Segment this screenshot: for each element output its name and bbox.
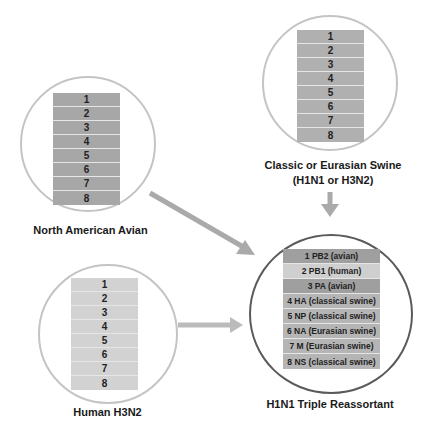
segment-3: 3: [297, 58, 364, 72]
h1n1-triple-reassortant-label: H1N1 Triple Reassortant: [255, 398, 405, 410]
segment-8: 8: [297, 128, 364, 142]
segment-pb1-human: 2 PB1 (human): [283, 264, 380, 279]
segment-3: 3: [71, 306, 138, 320]
segment-2: 2: [297, 44, 364, 58]
segment-8: 8: [53, 191, 120, 205]
arrow-human-to-result: [178, 317, 243, 333]
segment-1: 1: [297, 30, 364, 44]
segment-ns-classical-swine: 8 NS (classical swine): [283, 354, 380, 369]
classic-eurasian-swine-segments: 1 2 3 4 5 6 7 8: [297, 30, 364, 142]
human-h3n2-segments: 1 2 3 4 5 6 7 8: [71, 278, 138, 390]
segment-5: 5: [297, 86, 364, 100]
segment-np-classical-swine: 5 NP (classical swine): [283, 309, 380, 324]
segment-2: 2: [53, 107, 120, 121]
segment-6: 6: [53, 163, 120, 177]
arrow-swine-to-result: [321, 192, 339, 217]
h1n1-triple-reassortant-segments: 1 PB2 (avian) 2 PB1 (human) 3 PA (avian)…: [283, 249, 380, 369]
segment-1: 1: [71, 278, 138, 292]
north-american-avian-label: North American Avian: [18, 224, 163, 236]
segment-ha-classical-swine: 4 HA (classical swine): [283, 294, 380, 309]
segment-3: 3: [53, 121, 120, 135]
segment-6: 6: [297, 100, 364, 114]
segment-2: 2: [71, 292, 138, 306]
north-american-avian-segments: 1 2 3 4 5 6 7 8: [53, 93, 120, 205]
segment-4: 4: [71, 320, 138, 334]
segment-5: 5: [71, 334, 138, 348]
human-h3n2-label: Human H3N2: [35, 406, 180, 418]
classic-eurasian-swine-label-line1: Classic or Eurasian Swine: [258, 159, 408, 171]
arrow-avian-to-result: [150, 193, 255, 255]
segment-7: 7: [297, 114, 364, 128]
segment-na-eurasian-swine: 6 NA (Eurasian swine): [283, 324, 380, 339]
segment-1: 1: [53, 93, 120, 107]
classic-eurasian-swine-label-line2: (H1N1 or H3N2): [258, 174, 408, 186]
segment-6: 6: [71, 348, 138, 362]
segment-4: 4: [53, 135, 120, 149]
segment-pa-avian: 3 PA (avian): [283, 279, 380, 294]
segment-7: 7: [53, 177, 120, 191]
segment-5: 5: [53, 149, 120, 163]
segment-8: 8: [71, 376, 138, 390]
segment-4: 4: [297, 72, 364, 86]
segment-m-eurasian-swine: 7 M (Eurasian swine): [283, 339, 380, 354]
segment-pb2-avian: 1 PB2 (avian): [283, 249, 380, 264]
segment-7: 7: [71, 362, 138, 376]
